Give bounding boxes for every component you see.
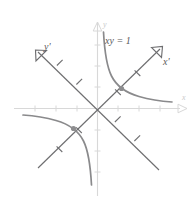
vertex-dot-upper-right bbox=[119, 86, 124, 91]
x-axis-label: x bbox=[182, 94, 186, 102]
x-prime-axis-label: x' bbox=[163, 57, 170, 67]
y-prime-ticks bbox=[57, 60, 140, 141]
equation-label: xy = 1 bbox=[105, 36, 131, 46]
vertex-dot-lower-left bbox=[71, 126, 76, 131]
y-axis-label: y bbox=[103, 21, 107, 29]
standard-axes-group bbox=[14, 22, 187, 196]
hyperbola-figure: xy = 1 x' y' x y bbox=[0, 0, 195, 201]
y-prime-axis-label: y' bbox=[44, 42, 51, 52]
figure-canvas bbox=[0, 0, 195, 201]
